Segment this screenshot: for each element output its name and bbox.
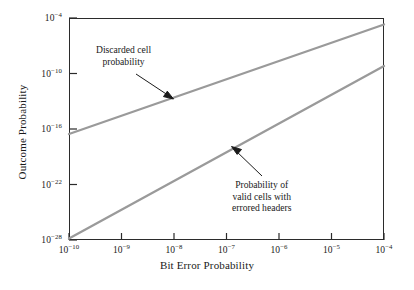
y-axis-title: Outcome Probability [16, 57, 28, 207]
x-tick-label-2: 10−8 [165, 245, 182, 255]
x-tick-label-1: 10−9 [113, 245, 130, 255]
annotation-valid-cells-errored-headers: Probability of valid cells with errored … [232, 179, 291, 214]
annotation-valid-line-2: valid cells with [232, 191, 291, 203]
x-tick-label-6: 10−4 [375, 245, 392, 255]
y-tick-label-0: 10−4 [22, 13, 62, 23]
y-tick-label-3: 10−22 [22, 180, 62, 190]
y-tick-label-4: 10−28 [22, 235, 62, 245]
y-tick-label-1: 10−10 [22, 69, 62, 79]
annotation-valid-line-3: errored headers [232, 202, 291, 214]
y-tick-label-2: 10−16 [22, 124, 62, 134]
annotation-discarded-cell-probability: Discarded cell probability [96, 44, 151, 67]
chart-figure: 10−4 10−10 10−16 10−22 10−28 10−10 10−9 … [0, 0, 414, 290]
annotation-discarded-line-1: Discarded cell [96, 44, 151, 56]
annotation-valid-line-1: Probability of [232, 179, 291, 191]
annotation-discarded-line-2: probability [96, 56, 151, 68]
x-tick-label-4: 10−6 [270, 245, 287, 255]
x-tick-label-5: 10−5 [323, 245, 340, 255]
x-axis-title: Bit Error Probability [0, 259, 414, 271]
x-tick-label-3: 10−7 [218, 245, 235, 255]
x-tick-label-0: 10−10 [59, 245, 80, 255]
